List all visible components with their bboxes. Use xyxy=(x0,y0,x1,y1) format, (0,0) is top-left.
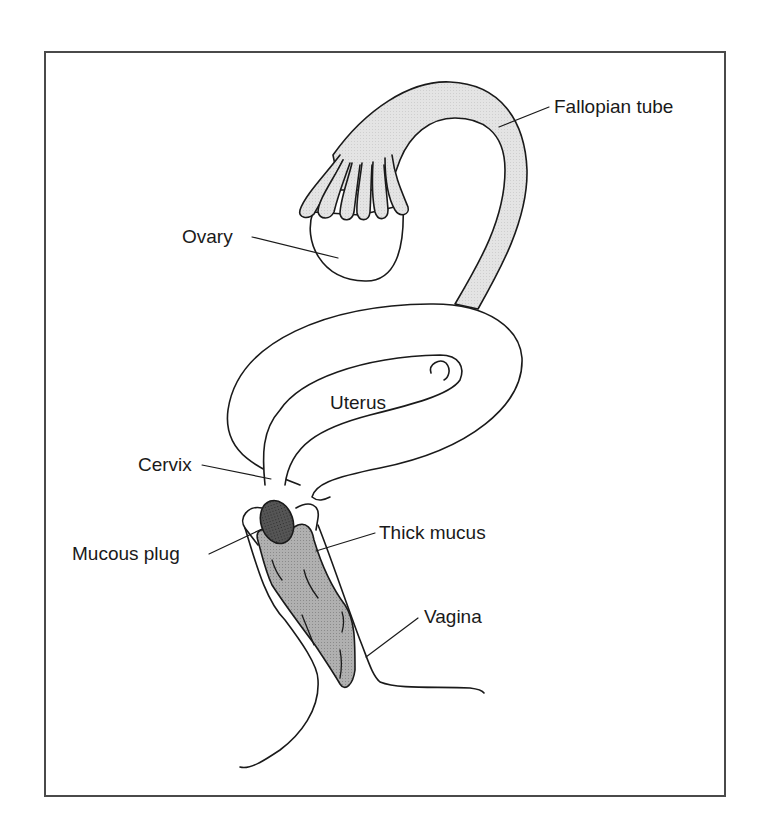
label-vagina: Vagina xyxy=(424,607,482,626)
thick-mucus-shape xyxy=(257,524,355,687)
leader-mucous-plug xyxy=(209,529,262,554)
label-cervix: Cervix xyxy=(138,455,192,474)
leader-vagina xyxy=(366,618,418,657)
label-uterus: Uterus xyxy=(330,393,386,412)
reproductive-tract-illustration xyxy=(0,0,770,839)
label-fallopian-tube: Fallopian tube xyxy=(554,97,673,116)
label-thick-mucus: Thick mucus xyxy=(379,523,486,542)
label-mucous-plug: Mucous plug xyxy=(72,544,180,563)
anatomy-figure: Fallopian tube Ovary Uterus Cervix Mucou… xyxy=(0,0,770,839)
label-ovary: Ovary xyxy=(182,227,233,246)
